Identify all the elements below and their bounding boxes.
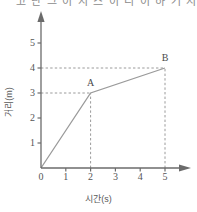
- x-tick-label-5: 5: [158, 171, 172, 182]
- data-series-distance: [41, 68, 165, 168]
- y-axis-title: 거리(m): [2, 72, 15, 132]
- axes: [37, 11, 191, 172]
- y-tick-label-1: 1: [22, 137, 35, 148]
- y-tick-label-2: 2: [22, 112, 35, 123]
- y-axis-arrowhead: [37, 11, 44, 22]
- x-tick-label-3: 3: [108, 171, 122, 182]
- y-tick-label-4: 4: [22, 62, 35, 73]
- y-tick-label-3: 3: [22, 87, 35, 98]
- distance-time-chart: 012345 12345 AB 거리(m) 시간(s): [0, 0, 197, 212]
- x-axis-title: 시간(s): [0, 192, 197, 205]
- x-tick-label-1: 1: [59, 171, 73, 182]
- x-tick-label-0: 0: [34, 171, 48, 182]
- point-b-label: B: [157, 52, 173, 63]
- x-tick-label-4: 4: [133, 171, 147, 182]
- x-tick-label-2: 2: [84, 171, 98, 182]
- guide-lines: [41, 68, 165, 168]
- y-tick-label-5: 5: [22, 37, 35, 48]
- x-axis-arrowhead: [179, 164, 191, 171]
- series-polyline: [41, 68, 165, 168]
- point-a-label: A: [83, 77, 99, 88]
